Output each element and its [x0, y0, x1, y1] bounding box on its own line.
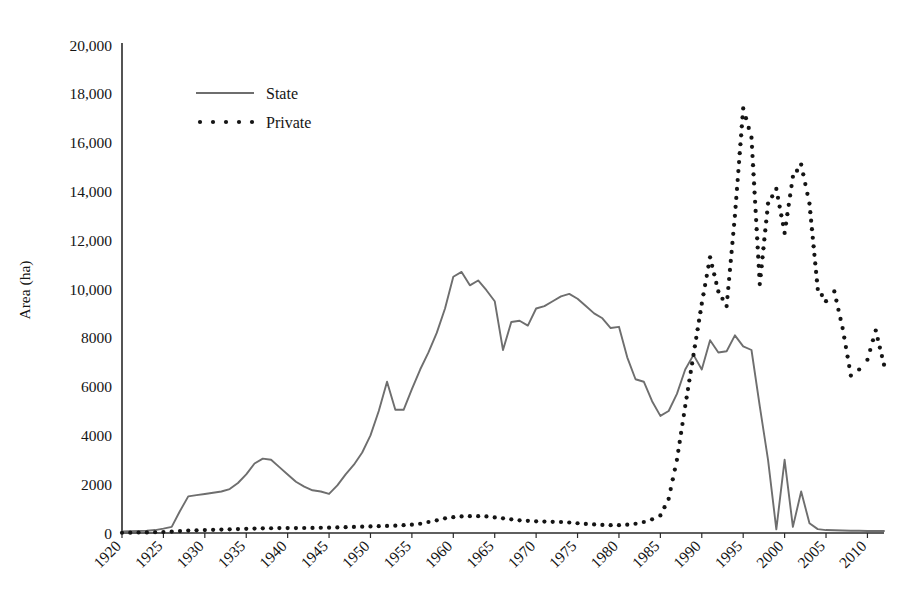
y-tick-label: 8000 — [81, 329, 112, 346]
y-tick-label: 14,000 — [69, 183, 112, 200]
private-dot — [738, 142, 742, 146]
private-dot — [360, 525, 364, 529]
private-dot — [451, 515, 455, 519]
private-dot — [763, 228, 767, 232]
series-state — [122, 272, 884, 532]
private-dot — [435, 518, 439, 522]
private-dot — [673, 467, 677, 471]
private-dot — [750, 145, 754, 149]
private-dot — [815, 278, 819, 282]
private-dot — [729, 259, 733, 263]
private-dot — [277, 526, 281, 530]
private-dot — [136, 530, 140, 534]
y-tick-label: 18,000 — [69, 85, 112, 102]
private-dot — [678, 440, 682, 444]
x-tick-label: 1990 — [670, 537, 704, 571]
legend-label-state: State — [266, 85, 298, 102]
private-dot — [783, 231, 787, 235]
private-dot — [703, 283, 707, 287]
private-dot — [667, 497, 671, 501]
private-dot — [868, 348, 872, 352]
private-dot — [834, 298, 838, 302]
private-dot — [791, 175, 795, 179]
private-dot — [803, 182, 807, 186]
private-dot — [824, 299, 828, 303]
private-dot — [726, 286, 730, 290]
private-dot — [669, 487, 673, 491]
private-dot — [753, 200, 757, 204]
private-dot — [734, 205, 738, 209]
private-dot — [690, 361, 694, 365]
private-dot — [683, 404, 687, 408]
private-dot — [725, 295, 729, 299]
private-dot — [617, 523, 621, 527]
x-tick-label: 1925 — [132, 537, 166, 571]
private-dot — [811, 236, 815, 240]
private-dot — [807, 202, 811, 206]
private-dot — [517, 518, 521, 522]
legend-marker-private-dot — [250, 120, 254, 124]
chart-legend: StatePrivate — [196, 85, 311, 131]
private-dot — [609, 523, 613, 527]
private-dot — [567, 520, 571, 524]
private-dot — [785, 212, 789, 216]
private-dot — [697, 319, 701, 323]
private-dot — [680, 422, 684, 426]
legend-marker-private-dot — [211, 120, 215, 124]
private-dot — [755, 236, 759, 240]
private-dot — [705, 274, 709, 278]
axis-spine — [122, 43, 884, 533]
private-dot — [302, 526, 306, 530]
legend-label-private: Private — [266, 114, 311, 131]
private-dot — [600, 523, 604, 527]
private-dot — [691, 353, 695, 357]
private-dot — [120, 531, 124, 535]
private-dot — [319, 526, 323, 530]
private-dot — [812, 253, 816, 257]
private-dot — [559, 520, 563, 524]
private-dot — [710, 264, 714, 268]
private-dot — [810, 227, 814, 231]
private-dot — [844, 345, 848, 349]
private-dot — [194, 528, 198, 532]
private-dot — [584, 522, 588, 526]
private-dot — [730, 241, 734, 245]
private-dot — [737, 160, 741, 164]
private-dot — [203, 528, 207, 532]
x-tick-label: 1985 — [629, 537, 663, 571]
private-dot — [752, 191, 756, 195]
x-tick-label: 1955 — [380, 537, 414, 571]
private-dot — [876, 337, 880, 341]
private-dot — [871, 338, 875, 342]
private-dot — [816, 287, 820, 291]
private-dot — [526, 519, 530, 523]
private-dot — [740, 124, 744, 128]
private-dot — [736, 169, 740, 173]
private-dot — [732, 223, 736, 227]
private-dot — [764, 219, 768, 223]
private-dot — [675, 458, 679, 462]
private-dot — [161, 530, 165, 534]
private-dot — [799, 162, 803, 166]
private-dot — [696, 327, 700, 331]
private-dot — [795, 169, 799, 173]
private-dot — [730, 250, 734, 254]
private-dot — [766, 202, 770, 206]
private-dot — [693, 344, 697, 348]
private-dot — [671, 477, 675, 481]
private-dot — [787, 203, 791, 207]
x-tick-label: 2010 — [836, 537, 870, 571]
y-tick-label: 6000 — [81, 378, 112, 395]
private-dot — [128, 531, 132, 535]
private-dot — [575, 521, 579, 525]
private-dot — [728, 268, 732, 272]
y-axis-title: Area (ha) — [16, 261, 34, 320]
private-dot — [261, 526, 265, 530]
x-tick-label: 1930 — [173, 537, 207, 571]
private-dot — [778, 204, 782, 208]
private-dot — [809, 219, 813, 223]
private-dot — [812, 244, 816, 248]
private-dot — [788, 193, 792, 197]
x-axis-tick-labels: 1920192519301935194019451950195519601965… — [90, 537, 870, 571]
private-dot — [752, 181, 756, 185]
